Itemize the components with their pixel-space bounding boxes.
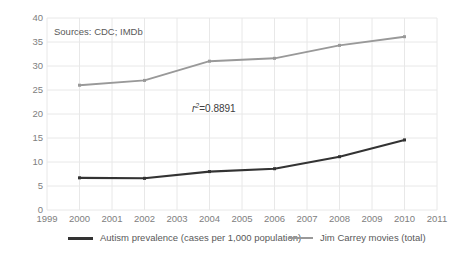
y-axis-tick-label: 30 <box>5 61 43 71</box>
x-axis: 1999200020012002200320042005200620072008… <box>47 213 437 227</box>
series-line-0 <box>80 140 405 178</box>
data-point-marker <box>403 138 406 141</box>
data-point-marker <box>403 35 406 38</box>
y-axis-tick-label: 5 <box>5 181 43 191</box>
y-axis-tick-label: 10 <box>5 157 43 167</box>
spurious-correlation-chart: 0510152025303540 Sources: CDC; IMDb r2=0… <box>0 0 454 260</box>
r-squared-annotation: r2=0.8891 <box>192 100 236 115</box>
data-point-marker <box>208 60 211 63</box>
legend-line-swatch-icon <box>288 237 313 239</box>
sources-annotation: Sources: CDC; IMDb <box>54 26 143 38</box>
r-squared-value: =0.8891 <box>199 103 235 114</box>
y-axis-tick-label: 20 <box>5 109 43 119</box>
y-axis-tick-label: 25 <box>5 85 43 95</box>
data-series-layer <box>47 18 437 210</box>
legend: Autism prevalence (cases per 1,000 popul… <box>0 231 454 247</box>
x-axis-tick-label: 2011 <box>414 213 454 225</box>
data-point-marker <box>273 167 276 170</box>
legend-label: Jim Carrey movies (total) <box>320 232 426 244</box>
legend-entry-0[interactable]: Autism prevalence (cases per 1,000 popul… <box>68 231 301 245</box>
data-point-marker <box>78 176 81 179</box>
plot-area <box>47 18 437 210</box>
legend-line-swatch-icon <box>68 237 93 240</box>
data-point-marker <box>338 44 341 47</box>
y-axis-tick-label: 35 <box>5 37 43 47</box>
y-axis: 0510152025303540 <box>0 18 43 210</box>
series-line-1 <box>80 37 405 85</box>
data-point-marker <box>78 84 81 87</box>
legend-entry-1[interactable]: Jim Carrey movies (total) <box>288 231 426 245</box>
data-point-marker <box>208 170 211 173</box>
data-point-marker <box>143 177 146 180</box>
data-point-marker <box>273 57 276 60</box>
y-axis-tick-label: 40 <box>5 13 43 23</box>
legend-label: Autism prevalence (cases per 1,000 popul… <box>100 232 301 244</box>
data-point-marker <box>143 79 146 82</box>
y-axis-tick-label: 15 <box>5 133 43 143</box>
data-point-marker <box>338 155 341 158</box>
